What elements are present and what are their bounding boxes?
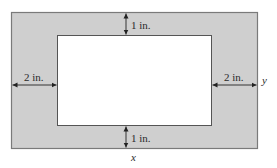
bottom-margin-label: 1 in.	[131, 132, 151, 144]
right-margin-label: 2 in.	[224, 71, 244, 83]
top-margin-label: 1 in.	[131, 19, 151, 31]
left-margin-label: 2 in.	[24, 71, 44, 83]
inner-rectangle	[58, 36, 212, 126]
framed-rectangle-diagram: 1 in. 1 in. 2 in. 2 in. y x	[0, 0, 277, 168]
width-variable-label: x	[130, 151, 136, 163]
height-variable-label: y	[261, 74, 267, 86]
